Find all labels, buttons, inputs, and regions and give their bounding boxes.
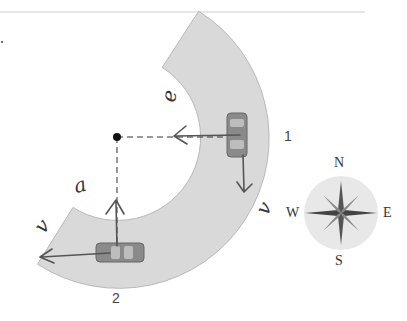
center-point — [113, 133, 121, 141]
compass-east-label: E — [383, 205, 392, 221]
car-2-icon — [96, 243, 144, 262]
compass-south-label: S — [335, 253, 343, 269]
diagram-canvas — [0, 0, 407, 321]
position-2-label: 2 — [112, 290, 120, 306]
margin-dot — [1, 41, 3, 43]
compass-rose-icon — [304, 176, 378, 250]
compass-west-label: W — [286, 205, 299, 221]
position-1-label: 1 — [284, 128, 292, 144]
compass-north-label: N — [334, 155, 344, 171]
